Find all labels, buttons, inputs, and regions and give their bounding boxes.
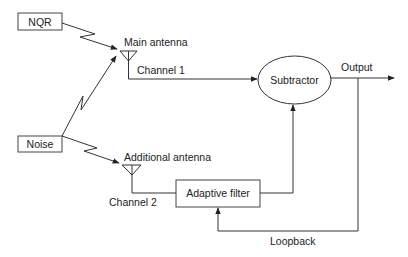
noise-to-additional-signal <box>62 136 119 163</box>
additional-antenna-label: Additional antenna <box>124 151 211 163</box>
channel1-label: Channel 1 <box>137 64 185 76</box>
subtractor-label: Subtractor <box>270 74 319 86</box>
nqr-label: NQR <box>28 16 52 28</box>
diagram-canvas: NQR Noise Main antenna Channel 1 Subtrac… <box>0 0 408 257</box>
filter-to-subtractor-line <box>260 105 293 193</box>
channel2-label: Channel 2 <box>109 196 157 208</box>
noise-label: Noise <box>27 138 54 150</box>
subtractor-block: Subtractor <box>258 56 331 104</box>
additional-antenna-icon <box>122 165 141 193</box>
main-antenna-icon <box>120 51 137 79</box>
adaptive-filter-label: Adaptive filter <box>186 187 250 199</box>
main-antenna-label: Main antenna <box>124 36 188 48</box>
noise-to-main-signal <box>62 56 116 136</box>
loopback-label: Loopback <box>270 235 316 247</box>
nqr-wireless-signal <box>62 23 117 49</box>
output-label: Output <box>341 61 373 73</box>
nqr-source-box: NQR <box>18 13 62 30</box>
noise-source-box: Noise <box>18 136 62 152</box>
adaptive-filter-block: Adaptive filter <box>176 180 260 207</box>
